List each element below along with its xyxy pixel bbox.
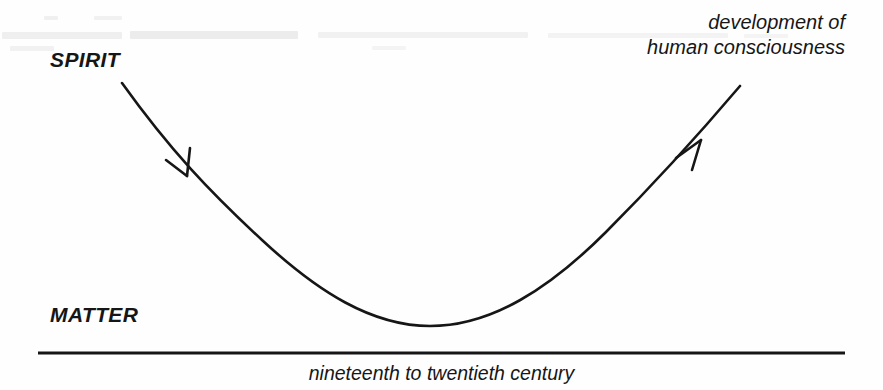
descent-arrow-icon	[166, 148, 190, 176]
caption-nineteenth-to-twentieth-century: nineteenth to twentieth century	[38, 362, 845, 385]
curve-diagram-canvas	[0, 0, 883, 390]
consciousness-curve-path	[122, 83, 740, 326]
figure-root: SPIRIT MATTER development of human consc…	[0, 0, 883, 390]
